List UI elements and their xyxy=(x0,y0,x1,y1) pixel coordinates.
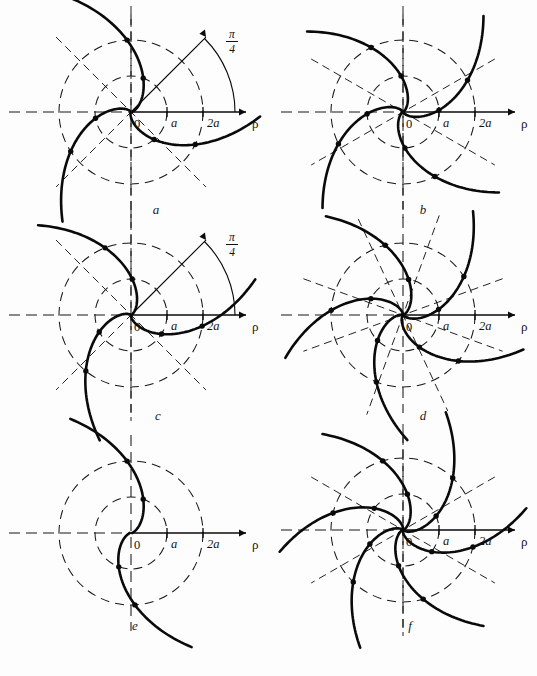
reference-circle-a xyxy=(367,279,439,351)
tick-label-2a: 2a xyxy=(479,116,492,130)
tick-label-a: a xyxy=(171,319,177,333)
curve-branch xyxy=(285,299,403,358)
curve-intersection-dot xyxy=(456,358,461,363)
curve-intersection-dot xyxy=(421,596,426,601)
curve-intersection-dot xyxy=(68,149,73,154)
reference-circle-a xyxy=(367,76,439,148)
rho-axis-arrowhead xyxy=(239,530,246,537)
curve-intersection-dot xyxy=(124,37,129,42)
curve-branch xyxy=(307,32,408,112)
curve-intersection-dot xyxy=(159,331,164,336)
panel-caption-e: e xyxy=(125,618,145,634)
angle-ray-45 xyxy=(131,240,206,315)
curve-branch xyxy=(130,113,260,145)
reference-circle-2a xyxy=(331,243,475,387)
rho-axis-label: ρ xyxy=(252,537,259,552)
curve-intersection-dot xyxy=(351,579,356,584)
rho-axis-arrowhead xyxy=(239,312,246,319)
angle-ray-arrowhead xyxy=(199,30,206,37)
curve-branch xyxy=(323,107,403,208)
curve-intersection-dot xyxy=(433,513,438,518)
curve-intersection-dot xyxy=(406,277,411,282)
curve-intersection-dot xyxy=(141,75,146,80)
curve-intersection-dot xyxy=(383,243,388,248)
curve-branch xyxy=(403,508,527,552)
tick-label-2a: 2a xyxy=(207,537,220,551)
reference-circle-2a xyxy=(331,458,475,602)
curve-branch xyxy=(403,16,483,117)
angle-arc xyxy=(205,39,236,113)
rho-axis-arrowhead xyxy=(508,527,515,534)
curve-intersection-dot xyxy=(432,174,437,179)
origin-label: 0 xyxy=(134,538,140,552)
angle-numerator: π xyxy=(229,28,236,40)
reference-circle-2a xyxy=(331,40,475,184)
curve-intersection-dot xyxy=(461,274,466,279)
reference-circle-2a xyxy=(59,461,203,605)
tick-label-2a: 2a xyxy=(479,319,492,333)
angle-denominator: 4 xyxy=(229,246,235,258)
reference-circle-2a xyxy=(59,243,203,387)
panel-caption-d: d xyxy=(413,408,433,424)
rho-axis-arrowhead xyxy=(239,109,246,116)
curve-branch xyxy=(404,412,455,531)
curve-branch xyxy=(38,225,137,314)
curve-intersection-dot xyxy=(398,73,403,78)
curve-intersection-dot xyxy=(367,541,372,546)
guide-ray-30 xyxy=(311,59,495,165)
angle-ray-arrowhead xyxy=(199,233,206,240)
panel-caption-a: a xyxy=(146,202,166,218)
curve-intersection-dot xyxy=(372,506,377,511)
curve-branch xyxy=(61,109,130,222)
angle-ray-45 xyxy=(131,37,206,112)
curve-intersection-dot xyxy=(102,245,107,250)
curve-intersection-dot xyxy=(83,368,88,373)
angle-arc xyxy=(205,242,236,316)
curve-intersection-dot xyxy=(450,475,455,480)
angle-numerator: π xyxy=(229,231,236,243)
curve-intersection-dot xyxy=(436,307,441,312)
guide-ray-45 xyxy=(56,240,206,390)
curve-branch xyxy=(326,216,411,314)
guide-ray-160 xyxy=(303,279,502,352)
curve-intersection-dot xyxy=(132,602,137,607)
rho-axis-label: ρ xyxy=(521,116,528,131)
origin-label: 0 xyxy=(406,117,412,131)
curve-branch xyxy=(131,279,255,334)
guide-ray-135 xyxy=(56,37,206,187)
panel-caption-c: c xyxy=(148,408,168,424)
tick-label-a: a xyxy=(443,319,449,333)
angle-denominator: 4 xyxy=(229,43,235,55)
curve-branch xyxy=(280,507,404,551)
curve-intersection-dot xyxy=(199,323,204,328)
curve-intersection-dot xyxy=(330,510,335,515)
curve-intersection-dot xyxy=(465,77,470,82)
curve-intersection-dot xyxy=(417,344,422,349)
curve-intersection-dot xyxy=(124,458,129,463)
guide-ray-30 xyxy=(311,477,495,583)
curve-branch xyxy=(398,112,499,192)
curve-intersection-dot xyxy=(368,45,373,50)
curve-branch xyxy=(70,0,143,112)
rho-axis-label: ρ xyxy=(252,116,259,131)
tick-label-a: a xyxy=(171,537,177,551)
tick-label-2a: 2a xyxy=(479,534,492,548)
curve-intersection-dot xyxy=(129,276,134,281)
guide-ray-70 xyxy=(367,215,440,414)
curve-branch xyxy=(323,434,411,530)
curve-intersection-dot xyxy=(380,458,385,463)
curve-intersection-dot xyxy=(151,137,156,142)
curve-branch xyxy=(402,316,524,362)
curve-branch xyxy=(395,530,483,626)
curve-intersection-dot xyxy=(374,379,379,384)
curve-intersection-dot xyxy=(93,116,98,121)
curve-intersection-dot xyxy=(97,329,102,334)
curve-branch xyxy=(352,528,403,647)
curve-intersection-dot xyxy=(141,496,146,501)
curve-intersection-dot xyxy=(375,338,380,343)
curve-intersection-dot xyxy=(193,142,198,147)
rho-axis-label: ρ xyxy=(521,319,528,334)
rho-axis-arrowhead xyxy=(508,109,515,116)
reference-circle-a xyxy=(95,497,167,569)
curve-intersection-dot xyxy=(396,563,401,568)
